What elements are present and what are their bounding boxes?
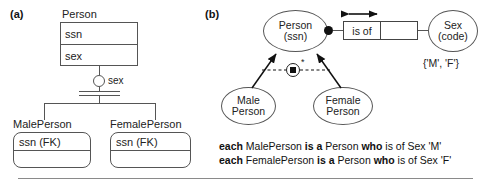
subtype-arrow-male — [252, 54, 276, 88]
generalization-bar-upper — [79, 91, 120, 92]
figure-canvas: (a) (b) Person ssn sex sex MalePerson ss… — [0, 0, 485, 188]
verbalization-male-b2: is a — [305, 140, 323, 152]
subtype-arrow-female — [317, 54, 341, 88]
panel-b-label: (b) — [205, 8, 219, 20]
entity-male-person-line2: Person — [232, 106, 265, 117]
femaleperson-table: ssn (FK) — [110, 132, 191, 168]
person-attribute-sex: sex — [61, 44, 137, 66]
verbalization-female-t3: is of Sex 'F' — [395, 154, 452, 166]
femaleperson-attribute-ssn: ssn (FK) — [111, 133, 190, 150]
footer-divider — [18, 178, 473, 179]
maleperson-attribute-ssn: ssn (FK) — [14, 133, 90, 150]
verbalization-female-b1: each — [219, 154, 243, 166]
verbalization-male: each MalePerson is a Person who is of Se… — [219, 140, 441, 152]
entity-female-person-line2: Person — [326, 106, 359, 117]
filled-dot-icon — [324, 26, 333, 35]
entity-person: Person (ssn) — [263, 10, 328, 52]
exclusion-constraint-marker: * — [301, 58, 305, 67]
predicate-sex-connector — [418, 30, 428, 31]
predicate-role-sex — [380, 22, 417, 39]
verbalization-male-b1: each — [219, 140, 243, 152]
verbalization-female: each FemalePerson is a Person who is of … — [219, 154, 451, 166]
circle-discriminator-icon — [93, 75, 105, 87]
discriminator-label: sex — [108, 75, 124, 86]
entity-person-refmode: (ssn) — [284, 31, 307, 42]
value-constraint: {'M', 'F'} — [423, 57, 459, 69]
maleperson-empty-compartment — [14, 150, 90, 168]
person-attribute-ssn: ssn — [61, 23, 137, 44]
entity-sex-refmode: (code) — [438, 31, 468, 42]
verbalization-female-b2: is a — [317, 154, 335, 166]
panel-a-label: (a) — [10, 8, 23, 20]
verbalization-female-t1: FemalePerson — [243, 154, 317, 166]
predicate-is-of: is of — [343, 21, 418, 40]
verbalization-male-b3: who — [361, 140, 382, 152]
person-predicate-connector — [333, 30, 343, 31]
entity-female-person: Female Person — [313, 87, 373, 125]
person-table: ssn sex — [60, 22, 138, 66]
predicate-role-person: is of — [344, 22, 380, 39]
entity-sex: Sex (code) — [428, 10, 478, 52]
subtype-branch-bus — [44, 103, 156, 104]
entity-male-person: Male Person — [221, 87, 276, 125]
femaleperson-table-title: FemalePerson — [110, 118, 182, 130]
maleperson-table: ssn (FK) — [13, 132, 91, 168]
femaleperson-empty-compartment — [111, 150, 190, 168]
verbalization-male-t2: Person — [322, 140, 361, 152]
verbalization-male-t1: MalePerson — [243, 140, 305, 152]
verbalization-female-t2: Person — [335, 154, 374, 166]
supertype-stem — [99, 66, 100, 75]
generalization-stem — [99, 95, 100, 103]
exclusion-constraint-core — [290, 67, 296, 73]
maleperson-table-title: MalePerson — [13, 118, 72, 130]
person-table-title: Person — [62, 8, 97, 20]
verbalization-female-b3: who — [374, 154, 395, 166]
verbalization-male-t3: is of Sex 'M' — [382, 140, 441, 152]
